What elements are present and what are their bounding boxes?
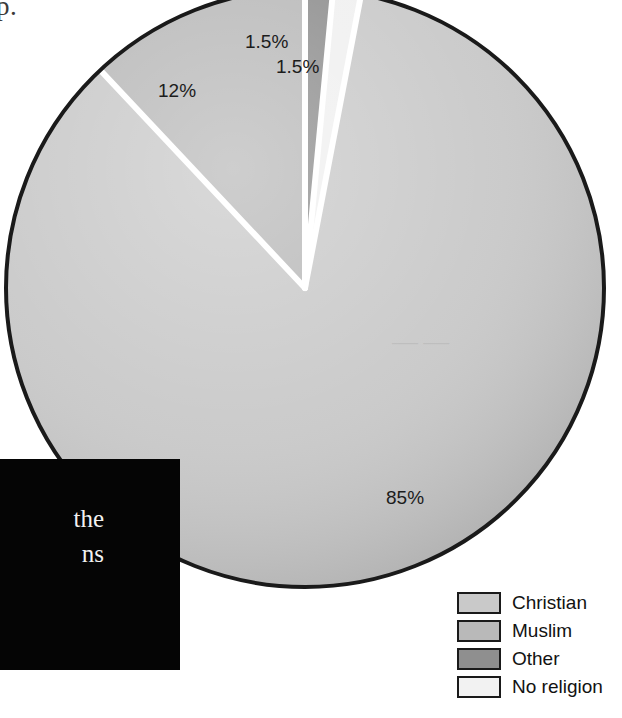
legend-label-no-religion: No religion [512, 676, 603, 698]
pie-label-no-religion: 1.5% [276, 56, 319, 78]
legend-swatch-no-religion [457, 676, 501, 698]
legend-label-other: Other [512, 648, 560, 670]
legend-item-other: Other [457, 645, 617, 672]
legend-item-muslim: Muslim [457, 617, 617, 644]
scanned-page: p. [0, 0, 622, 718]
pie-label-christian: 85% [386, 487, 424, 509]
legend-swatch-muslim [457, 620, 501, 642]
legend-item-no-religion: No religion [457, 673, 617, 700]
chart-legend: Christian Muslim Other No religion [457, 589, 617, 701]
legend-swatch-other [457, 648, 501, 670]
legend-item-christian: Christian [457, 589, 617, 616]
legend-label-christian: Christian [512, 592, 587, 614]
caption-block: the ns [0, 459, 180, 670]
caption-line-2: ns [0, 536, 104, 571]
legend-label-muslim: Muslim [512, 620, 572, 642]
caption-line-1: the [0, 501, 104, 536]
legend-swatch-christian [457, 592, 501, 614]
pie-label-muslim: 12% [158, 80, 196, 102]
caption-text: the ns [0, 501, 104, 571]
pie-label-other: 1.5% [245, 31, 288, 53]
